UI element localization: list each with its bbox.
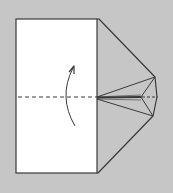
crease-center-thick	[97, 97, 141, 98]
origami-diagram	[0, 0, 173, 193]
paper-front-panel	[16, 19, 97, 173]
